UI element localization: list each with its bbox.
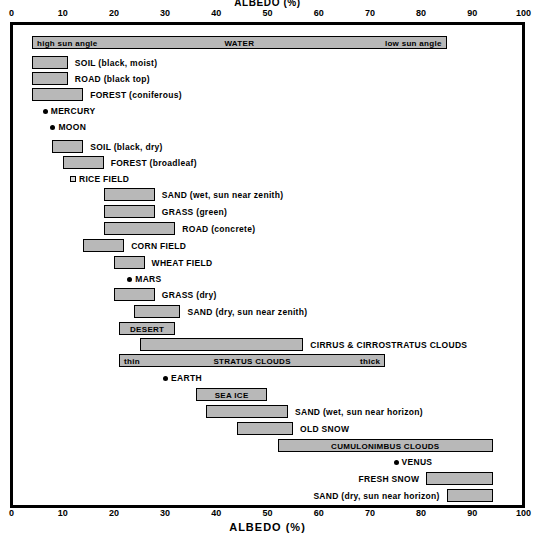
row-label-old-snow: OLD SNOW [300, 424, 349, 434]
row-label-sand-dry-zenith: SAND (dry, sun near zenith) [187, 307, 307, 317]
axis-label-bottom: ALBEDO (%) [0, 521, 535, 533]
axis-tick-60: 60 [314, 508, 324, 518]
row-label-sand-wet-zenith: SAND (wet, sun near zenith) [162, 190, 283, 200]
row-label-rice-field: RICE FIELD [79, 174, 129, 184]
chart-row-earth[interactable]: EARTH [0, 371, 535, 384]
row-label-road-black-top: ROAD (black top) [75, 74, 150, 84]
bar-sand-dry-zenith[interactable] [134, 305, 180, 318]
row-label-cirrus-cirrostratus-clouds: CIRRUS & CIRROSTRATUS CLOUDS [310, 340, 467, 350]
chart-row-wheat-field[interactable]: WHEAT FIELD [0, 256, 535, 269]
row-label-wheat-field: WHEAT FIELD [152, 258, 213, 268]
axis-tick-40: 40 [211, 508, 221, 518]
row-label-soil-black-dry: SOIL (black, dry) [90, 142, 163, 152]
bar-water[interactable]: WATERhigh sun anglelow sun angle [32, 36, 447, 49]
row-label-sand-wet-horizon: SAND (wet, sun near horizon) [295, 407, 423, 417]
marker-dot-earth[interactable] [163, 376, 168, 381]
bar-stratus-clouds[interactable]: STRATUS CLOUDSthinthick [119, 354, 385, 367]
bar-road-concrete[interactable] [104, 222, 176, 235]
chart-row-moon[interactable]: MOON [0, 120, 535, 133]
row-label-grass-dry: GRASS (dry) [162, 290, 217, 300]
axis-tick-80: 80 [416, 508, 426, 518]
chart-row-fresh-snow[interactable]: FRESH SNOW [0, 472, 535, 485]
bar-forest-broadleaf[interactable] [63, 156, 104, 169]
bar-label-desert: DESERT [130, 324, 164, 333]
row-label-fresh-snow: FRESH SNOW [359, 474, 420, 484]
bar-fresh-snow[interactable] [426, 472, 493, 485]
bar-sand-dry-horizon[interactable] [447, 489, 493, 502]
bar-cirrus-cirrostratus-clouds[interactable] [140, 338, 304, 351]
chart-row-mercury[interactable]: MERCURY [0, 104, 535, 117]
axis-tick-0: 0 [9, 508, 14, 518]
chart-row-corn-field[interactable]: CORN FIELD [0, 239, 535, 252]
bar-sublabel-left-stratus-clouds: thin [124, 356, 140, 365]
bar-soil-black-moist[interactable] [32, 56, 68, 69]
row-label-moon: MOON [58, 122, 86, 132]
bar-sand-wet-horizon[interactable] [206, 405, 288, 418]
chart-row-stratus-clouds[interactable]: STRATUS CLOUDSthinthick [0, 354, 535, 367]
bar-corn-field[interactable] [83, 239, 124, 252]
data-rows-layer: WATERhigh sun anglelow sun angleSOIL (bl… [0, 0, 535, 542]
bar-forest-coniferous[interactable] [32, 88, 83, 101]
chart-row-cirrus-cirrostratus-clouds[interactable]: CIRRUS & CIRROSTRATUS CLOUDS [0, 338, 535, 351]
row-label-forest-coniferous: FOREST (coniferous) [90, 90, 182, 100]
chart-row-soil-black-dry[interactable]: SOIL (black, dry) [0, 140, 535, 153]
row-label-soil-black-moist: SOIL (black, moist) [75, 58, 158, 68]
bar-road-black-top[interactable] [32, 72, 68, 85]
marker-dot-mercury[interactable] [43, 109, 48, 114]
chart-row-rice-field[interactable]: RICE FIELD [0, 172, 535, 185]
bar-sea-ice[interactable]: SEA ICE [196, 388, 268, 401]
row-label-road-concrete: ROAD (concrete) [182, 224, 255, 234]
chart-row-road-black-top[interactable]: ROAD (black top) [0, 72, 535, 85]
axis-tick-20: 20 [109, 508, 119, 518]
row-label-venus: VENUS [402, 457, 433, 467]
bar-grass-dry[interactable] [114, 288, 155, 301]
bar-old-snow[interactable] [237, 422, 293, 435]
row-label-corn-field: CORN FIELD [131, 241, 186, 251]
bar-sublabel-right-water: low sun angle [385, 38, 442, 47]
chart-row-cumulonimbus-clouds[interactable]: CUMULONIMBUS CLOUDS [0, 439, 535, 452]
axis-tick-10: 10 [58, 508, 68, 518]
row-label-mercury: MERCURY [51, 106, 96, 116]
bar-sublabel-right-stratus-clouds: thick [360, 356, 380, 365]
chart-row-mars[interactable]: MARS [0, 272, 535, 285]
row-label-mars: MARS [135, 274, 161, 284]
axis-ticks-bottom: 0102030405060708090100 [0, 508, 535, 520]
chart-row-sand-dry-zenith[interactable]: SAND (dry, sun near zenith) [0, 305, 535, 318]
bar-sublabel-left-water: high sun angle [37, 38, 98, 47]
marker-square-rice-field[interactable] [70, 176, 76, 182]
chart-row-sand-dry-horizon[interactable]: SAND (dry, sun near horizon) [0, 489, 535, 502]
bar-grass-green[interactable] [104, 205, 155, 218]
bar-soil-black-dry[interactable] [52, 140, 83, 153]
axis-tick-90: 90 [467, 508, 477, 518]
chart-row-sand-wet-horizon[interactable]: SAND (wet, sun near horizon) [0, 405, 535, 418]
axis-tick-100: 100 [516, 508, 531, 518]
row-label-grass-green: GRASS (green) [162, 207, 227, 217]
bar-sand-wet-zenith[interactable] [104, 188, 155, 201]
chart-row-sand-wet-zenith[interactable]: SAND (wet, sun near zenith) [0, 188, 535, 201]
bar-label-water: WATER [224, 38, 254, 47]
chart-row-desert[interactable]: DESERT [0, 322, 535, 335]
marker-dot-mars[interactable] [127, 277, 132, 282]
axis-tick-70: 70 [365, 508, 375, 518]
bar-label-stratus-clouds: STRATUS CLOUDS [213, 356, 290, 365]
row-label-sand-dry-horizon: SAND (dry, sun near horizon) [313, 491, 439, 501]
axis-tick-30: 30 [160, 508, 170, 518]
chart-row-grass-dry[interactable]: GRASS (dry) [0, 288, 535, 301]
chart-row-road-concrete[interactable]: ROAD (concrete) [0, 222, 535, 235]
bar-label-cumulonimbus-clouds: CUMULONIMBUS CLOUDS [331, 441, 439, 450]
chart-row-soil-black-moist[interactable]: SOIL (black, moist) [0, 56, 535, 69]
bar-wheat-field[interactable] [114, 256, 145, 269]
chart-row-sea-ice[interactable]: SEA ICE [0, 388, 535, 401]
row-label-earth: EARTH [171, 373, 202, 383]
chart-row-water[interactable]: WATERhigh sun anglelow sun angle [0, 36, 535, 49]
bar-desert[interactable]: DESERT [119, 322, 175, 335]
axis-tick-50: 50 [262, 508, 272, 518]
chart-row-grass-green[interactable]: GRASS (green) [0, 205, 535, 218]
marker-dot-venus[interactable] [394, 460, 399, 465]
marker-dot-moon[interactable] [50, 125, 55, 130]
bar-cumulonimbus-clouds[interactable]: CUMULONIMBUS CLOUDS [278, 439, 493, 452]
chart-row-venus[interactable]: VENUS [0, 455, 535, 468]
chart-row-forest-broadleaf[interactable]: FOREST (broadleaf) [0, 156, 535, 169]
chart-row-old-snow[interactable]: OLD SNOW [0, 422, 535, 435]
chart-row-forest-coniferous[interactable]: FOREST (coniferous) [0, 88, 535, 101]
